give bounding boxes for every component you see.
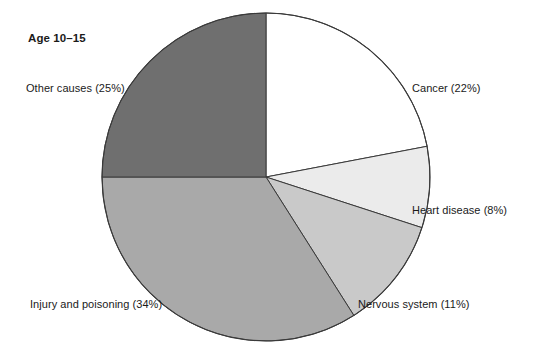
pie-slice-other-causes[interactable] <box>102 13 266 177</box>
pie-chart-figure: Age 10–15 Other causes (25%) Cancer (22%… <box>0 0 543 358</box>
slice-label-injury-and-poisoning: Injury and poisoning (34%) <box>30 298 162 310</box>
pie-slices-group <box>102 13 430 341</box>
slice-label-other-causes: Other causes (25%) <box>26 82 125 94</box>
slice-label-cancer: Cancer (22%) <box>412 82 480 94</box>
slice-label-nervous-system: Nervous system (11%) <box>358 298 469 310</box>
slice-label-heart-disease: Heart disease (8%) <box>412 204 507 216</box>
